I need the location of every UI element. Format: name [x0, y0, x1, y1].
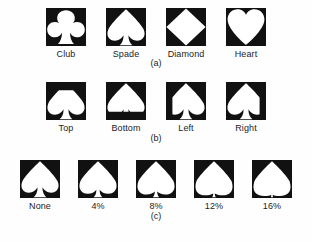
- panel-a-row: Club Spade Diamond H: [0, 8, 312, 60]
- stimulus-cell-stem-16: 16%: [243, 160, 301, 212]
- spade-stem-12-icon: [194, 160, 234, 198]
- stimulus-cell-diamond: Diamond: [156, 8, 216, 60]
- panel-caption-c: (c): [0, 211, 312, 222]
- stimulus-cell-stem-12: 12%: [185, 160, 243, 212]
- heart-cutout-icon: [226, 8, 266, 46]
- club-cutout-icon: [46, 8, 86, 46]
- figure-panel-container: Club Spade Diamond H: [0, 0, 312, 242]
- panel-b-row: Top Bottom: [0, 82, 312, 134]
- spade-clipped-top-icon: [46, 82, 86, 120]
- spade-stem-8-icon: [136, 160, 176, 198]
- spade-clipped-bottom-icon: [106, 82, 146, 120]
- stimulus-cell-heart: Heart: [216, 8, 276, 60]
- panel-caption-b: (b): [0, 133, 312, 144]
- stimulus-cell-right: Right: [216, 82, 276, 134]
- stimulus-cell-stem-8: 8%: [127, 160, 185, 212]
- stimulus-cell-left: Left: [156, 82, 216, 134]
- diamond-cutout-icon: [166, 8, 206, 46]
- stimulus-cell-club: Club: [36, 8, 96, 60]
- spade-stem-0-icon: [20, 160, 60, 198]
- stimulus-cell-bottom: Bottom: [96, 82, 156, 134]
- stimulus-cell-top: Top: [36, 82, 96, 134]
- spade-cutout-icon: [106, 8, 146, 46]
- spade-clipped-left-icon: [166, 82, 206, 120]
- panel-c-row: None 4% 8% 12%: [0, 160, 312, 212]
- panel-caption-a: (a): [0, 58, 312, 69]
- spade-stem-16-icon: [252, 160, 292, 198]
- stimulus-cell-spade: Spade: [96, 8, 156, 60]
- stimulus-cell-stem-4: 4%: [69, 160, 127, 212]
- spade-clipped-right-icon: [226, 82, 266, 120]
- stimulus-cell-stem-none: None: [11, 160, 69, 212]
- spade-stem-4-icon: [78, 160, 118, 198]
